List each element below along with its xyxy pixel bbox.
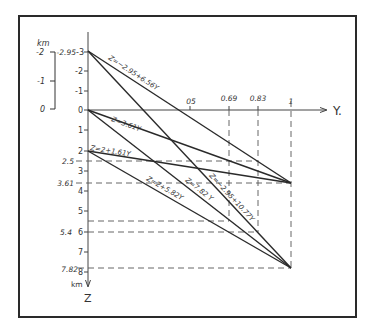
- diagram-canvas: km -2 -1 0 -3 -2 -1 0 1 2 3 4 5 6 7 8 -2…: [0, 0, 371, 332]
- z-tick-5: 5: [78, 207, 83, 216]
- mark-5-4: 5.4: [60, 228, 72, 237]
- z-axis-unit: km: [71, 280, 83, 289]
- mark-2-5: 2.5: [62, 157, 74, 166]
- mark-7-82: 7.82: [61, 265, 78, 274]
- z-tick-7: 7: [78, 248, 83, 257]
- line-z-neg2-95-10-77y: [88, 51, 291, 268]
- label-line-4: Z=2+5.82Y: [144, 174, 185, 202]
- label-line-3: Z=2+1.61Y: [89, 144, 132, 159]
- line-z-2-5-82y: [88, 151, 291, 268]
- scale-bar: [50, 52, 55, 109]
- label-line-1: Z=−2.95+6.56Y: [106, 53, 160, 92]
- y-axis-label: Y.: [332, 104, 342, 118]
- y-tick-0-5: 05: [186, 97, 196, 106]
- scale-bar-unit: km: [37, 39, 50, 48]
- z-tick-neg3: -3: [76, 48, 84, 57]
- z-tick-8: 8: [78, 268, 83, 277]
- z-tick-3: 3: [78, 167, 83, 176]
- scale-bar-label-0: 0: [40, 105, 45, 114]
- y-tick-0-69: 0.69: [221, 94, 238, 103]
- mark-3-61: 3.61: [57, 179, 74, 188]
- z-tick-neg2: -2: [75, 67, 83, 76]
- y-tick-0-83: 0.83: [250, 94, 267, 103]
- z-tick-1: 1: [78, 126, 83, 135]
- scale-bar-label-neg1: -1: [37, 77, 45, 86]
- z-tick-0: 0: [78, 106, 83, 115]
- z-tick-4: 4: [78, 187, 83, 196]
- z-axis: [84, 32, 91, 287]
- solution-lines: [88, 51, 291, 268]
- scale-bar-label-neg2: -2: [36, 48, 44, 57]
- z-tick-6: 6: [78, 228, 83, 237]
- line-z-7-82y: [88, 110, 291, 268]
- z-tick-neg1: -1: [75, 87, 83, 96]
- z-tick-2: 2: [78, 147, 83, 156]
- z-axis-label: Z: [84, 292, 92, 305]
- label-line-6: Z=−2.95+10.77Y: [207, 171, 257, 223]
- mark-neg2-95: -2.95: [57, 48, 77, 57]
